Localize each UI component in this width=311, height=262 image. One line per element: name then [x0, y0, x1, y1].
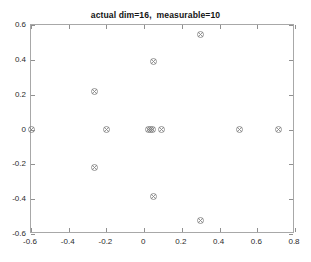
y-axis-labels: -0.6-0.4-0.200.20.40.6: [0, 0, 26, 262]
y-tick-2: [31, 164, 35, 165]
x-tick-label-4: 0.2: [175, 237, 186, 246]
data-point: [149, 126, 156, 133]
y-tick-right-1: [289, 199, 293, 200]
y-tick-5: [31, 60, 35, 61]
x-tick-top-3: [144, 25, 145, 29]
x-tick-3: [144, 228, 145, 232]
data-point: [197, 31, 204, 38]
data-point: [103, 126, 110, 133]
y-tick-right-4: [289, 95, 293, 96]
x-tick-1: [69, 228, 70, 232]
x-tick-5: [220, 228, 221, 232]
y-tick-0: [31, 234, 35, 235]
y-tick-4: [31, 95, 35, 96]
x-tick-7: [295, 228, 296, 232]
data-point: [150, 58, 157, 65]
y-tick-label-2: -0.2: [12, 159, 26, 168]
x-tick-label-3: 0: [141, 237, 145, 246]
x-tick-top-2: [106, 25, 107, 29]
x-tick-0: [31, 228, 32, 232]
x-tick-top-5: [220, 25, 221, 29]
data-point: [236, 126, 243, 133]
data-point: [197, 217, 204, 224]
y-tick-6: [31, 25, 35, 26]
x-tick-top-1: [69, 25, 70, 29]
plot-axes-box: [30, 24, 294, 233]
x-tick-top-6: [257, 25, 258, 29]
page-title: actual dim=16, measurable=10: [0, 10, 311, 20]
x-tick-label-2: -0.2: [99, 237, 113, 246]
scatter-points-layer: [31, 25, 293, 232]
x-tick-top-7: [295, 25, 296, 29]
x-tick-top-4: [182, 25, 183, 29]
y-tick-label-5: 0.4: [15, 54, 26, 63]
y-tick-label-6: 0.6: [15, 20, 26, 29]
data-point: [150, 193, 157, 200]
data-point: [158, 126, 165, 133]
y-tick-right-2: [289, 164, 293, 165]
y-tick-3: [31, 130, 35, 131]
y-tick-right-0: [289, 234, 293, 235]
y-tick-right-3: [289, 130, 293, 131]
y-tick-label-3: 0: [22, 124, 26, 133]
x-tick-label-7: 0.8: [288, 237, 299, 246]
y-tick-label-4: 0.2: [15, 89, 26, 98]
x-tick-label-5: 0.4: [213, 237, 224, 246]
x-tick-4: [182, 228, 183, 232]
x-tick-label-1: -0.4: [61, 237, 75, 246]
y-tick-right-6: [289, 25, 293, 26]
data-point: [91, 164, 98, 171]
x-tick-6: [257, 228, 258, 232]
data-point: [91, 88, 98, 95]
y-tick-label-1: -0.4: [12, 194, 26, 203]
x-tick-label-6: 0.6: [251, 237, 262, 246]
x-tick-2: [106, 228, 107, 232]
y-tick-right-5: [289, 60, 293, 61]
x-tick-label-0: -0.6: [23, 237, 37, 246]
data-point: [275, 126, 282, 133]
figure-canvas: actual dim=16, measurable=10 -0.6-0.4-0.…: [0, 0, 311, 262]
y-tick-1: [31, 199, 35, 200]
